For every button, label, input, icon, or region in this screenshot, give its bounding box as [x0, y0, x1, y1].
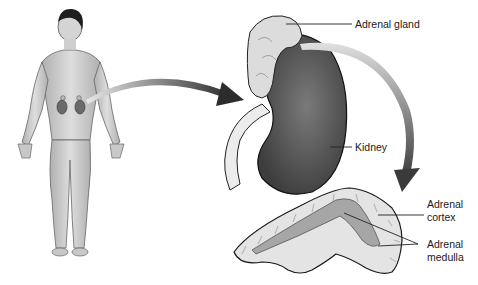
- label-adrenal-medulla-2: medulla: [427, 251, 464, 263]
- label-kidney: Kidney: [355, 141, 387, 153]
- adrenal-cross-section: [234, 188, 402, 273]
- label-adrenal-gland: Adrenal gland: [355, 18, 420, 30]
- label-adrenal-cortex-2: cortex: [427, 211, 456, 223]
- label-adrenal-medulla-1: Adrenal: [427, 238, 463, 250]
- diagram-art: [0, 0, 478, 285]
- label-adrenal-cortex-1: Adrenal: [427, 198, 463, 210]
- human-figure: [18, 9, 124, 256]
